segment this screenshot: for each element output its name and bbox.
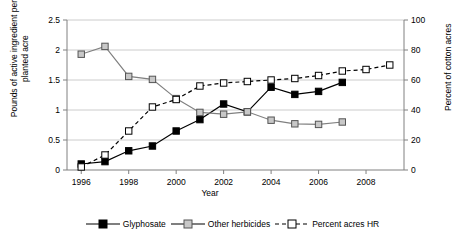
data-point [126, 128, 132, 134]
data-point [292, 121, 298, 127]
gridlines [67, 20, 404, 140]
data-point [78, 164, 84, 170]
legend-swatch-other-herbicides [171, 218, 205, 230]
svg-text:40: 40 [411, 105, 421, 115]
data-point [126, 73, 132, 79]
data-point [292, 75, 298, 81]
svg-text:80: 80 [411, 45, 421, 55]
y-axis-left-ticks: 00.511.522.5 [48, 15, 67, 175]
svg-text:2002: 2002 [214, 177, 233, 187]
data-point [292, 91, 298, 97]
axis-lines [67, 20, 404, 170]
data-point [197, 109, 203, 115]
svg-text:2008: 2008 [357, 177, 376, 187]
data-point [173, 128, 179, 134]
svg-text:2: 2 [55, 45, 60, 55]
svg-text:60: 60 [411, 75, 421, 85]
data-point [244, 78, 250, 84]
x-axis-ticks: 1996199820002002200420062008 [72, 170, 376, 187]
data-point [102, 43, 108, 49]
svg-text:2006: 2006 [309, 177, 328, 187]
data-point [363, 66, 369, 72]
data-point [244, 109, 250, 115]
data-point [268, 77, 274, 83]
data-point [220, 111, 226, 117]
legend-item-glyphosate: Glyphosate [86, 218, 166, 230]
data-point [339, 119, 345, 125]
data-point [102, 158, 108, 164]
data-series-layer [78, 43, 393, 170]
data-point [102, 152, 108, 158]
data-point [339, 68, 345, 74]
svg-text:100: 100 [411, 15, 425, 25]
series-other-herbicides [78, 43, 345, 127]
legend-label-percent-acres-hr: Percent acres HR [312, 219, 379, 229]
svg-text:0.5: 0.5 [48, 135, 60, 145]
svg-text:1.5: 1.5 [48, 75, 60, 85]
data-point [220, 101, 226, 107]
legend-item-other-herbicides: Other herbicides [171, 218, 270, 230]
svg-text:20: 20 [411, 135, 421, 145]
svg-text:2004: 2004 [262, 177, 281, 187]
data-point [78, 51, 84, 57]
svg-text:1: 1 [55, 105, 60, 115]
plot-area: 00.511.522.5 020406080100 19961998200020… [0, 0, 465, 245]
data-point [387, 62, 393, 68]
legend-swatch-glyphosate [86, 218, 120, 230]
svg-text:1996: 1996 [72, 177, 91, 187]
data-point [220, 80, 226, 86]
data-point [149, 143, 155, 149]
data-point [149, 104, 155, 110]
data-point [315, 72, 321, 78]
data-point [197, 83, 203, 89]
legend-item-percent-acres-hr: Percent acres HR [275, 218, 379, 230]
legend-label-other-herbicides: Other herbicides [208, 219, 270, 229]
svg-text:1998: 1998 [119, 177, 138, 187]
svg-text:0: 0 [55, 165, 60, 175]
svg-text:2.5: 2.5 [48, 15, 60, 25]
svg-text:0: 0 [411, 165, 416, 175]
series-glyphosate [78, 79, 345, 167]
legend-label-glyphosate: Glyphosate [123, 219, 166, 229]
data-point [315, 121, 321, 127]
data-point [126, 148, 132, 154]
y-axis-right-ticks: 020406080100 [404, 15, 425, 175]
legend-swatch-percent-acres-hr [275, 218, 309, 230]
svg-text:2000: 2000 [167, 177, 186, 187]
chart-legend: Glyphosate Other herbicides Percent acre… [0, 218, 465, 230]
data-point [268, 84, 274, 90]
data-point [197, 116, 203, 122]
chart-container: Pounds of active ingredient per planted … [0, 0, 465, 245]
data-point [268, 117, 274, 123]
data-point [149, 76, 155, 82]
data-point [173, 96, 179, 102]
data-point [339, 79, 345, 85]
data-point [315, 88, 321, 94]
